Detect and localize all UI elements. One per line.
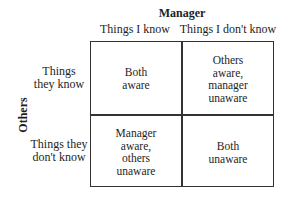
manager-title: Manager bbox=[159, 6, 206, 21]
others-side-label: Others bbox=[16, 97, 31, 132]
horizontal-divider bbox=[90, 114, 274, 116]
cell-manager-aware-others-unaware: Manager aware, others unaware bbox=[116, 127, 157, 177]
cell-both-aware: Both aware bbox=[122, 66, 149, 91]
column-header-things-i-dont-know: Things I don't know bbox=[180, 22, 277, 37]
column-header-things-i-know: Things I know bbox=[100, 22, 170, 37]
row-header-things-they-know: Things they know bbox=[34, 65, 84, 91]
cell-both-unaware: Both unaware bbox=[209, 140, 248, 165]
row-header-things-they-dont-know: Things they don't know bbox=[31, 138, 88, 164]
cell-others-aware-manager-unaware: Others aware, manager unaware bbox=[208, 54, 248, 104]
